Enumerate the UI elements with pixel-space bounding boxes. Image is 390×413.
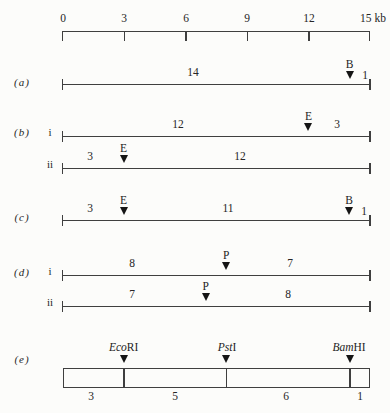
cut-site-triangle-icon bbox=[120, 355, 128, 363]
enzyme-name-italic: Eco bbox=[109, 341, 127, 353]
enzyme-name-roman: I bbox=[232, 341, 236, 353]
cut-site-triangle-icon bbox=[346, 355, 354, 363]
enzyme-name-roman: HI bbox=[353, 341, 365, 353]
linear-map-box bbox=[63, 368, 370, 388]
enzyme-label-psti: PstI bbox=[218, 341, 237, 353]
fragment-size-label: 3 bbox=[88, 391, 94, 402]
cut-site-divider bbox=[349, 369, 351, 387]
enzyme-name-italic: Pst bbox=[218, 341, 233, 353]
map-row-e: (e) EcoRI PstI BamHI 3 5 6 1 bbox=[0, 0, 390, 413]
enzyme-label-bamhi: BamHI bbox=[332, 341, 365, 353]
enzyme-name-italic: Bam bbox=[332, 341, 353, 353]
enzyme-name-roman: RI bbox=[127, 341, 139, 353]
cut-site-divider bbox=[123, 369, 125, 387]
fragment-size-label: 1 bbox=[357, 391, 363, 402]
cut-site-divider bbox=[226, 369, 228, 387]
fragment-size-label: 5 bbox=[172, 391, 178, 402]
fragment-size-label: 6 bbox=[283, 391, 289, 402]
cut-site-triangle-icon bbox=[222, 355, 230, 363]
restriction-map-figure: 0 3 6 9 12 15 kb (a) 14 B 1 (b) i 12 bbox=[0, 0, 390, 413]
enzyme-label-ecori: EcoRI bbox=[109, 341, 138, 353]
row-label-e: (e) bbox=[10, 354, 34, 365]
